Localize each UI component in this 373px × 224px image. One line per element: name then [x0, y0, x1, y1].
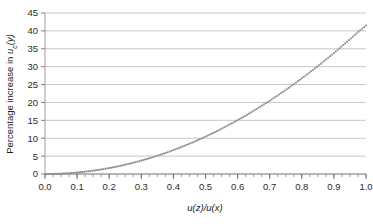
- data-point: [82, 171, 84, 173]
- data-point: [291, 84, 293, 86]
- data-point: [227, 124, 229, 126]
- chart-background: [0, 0, 373, 224]
- data-point: [225, 125, 227, 127]
- data-point: [327, 57, 329, 59]
- data-point: [184, 145, 186, 147]
- data-point: [193, 141, 195, 143]
- x-tick-label-0.7: 0.7: [263, 181, 276, 192]
- data-point: [303, 76, 305, 78]
- data-point: [105, 168, 107, 170]
- data-point: [307, 73, 309, 75]
- data-point: [191, 142, 193, 144]
- y-tick-label-0: 0: [33, 168, 38, 179]
- data-point: [189, 142, 191, 144]
- data-point: [173, 149, 175, 151]
- data-point: [341, 46, 343, 48]
- data-point: [214, 131, 216, 133]
- data-point: [257, 107, 259, 109]
- data-point: [88, 170, 90, 172]
- x-axis-title: u(z)/u(x): [187, 202, 222, 213]
- data-point: [55, 173, 57, 175]
- data-point: [69, 172, 71, 174]
- data-point: [206, 135, 208, 137]
- data-point: [157, 154, 159, 156]
- data-point: [278, 94, 280, 96]
- y-tick-label-20: 20: [27, 97, 38, 108]
- data-point: [286, 88, 288, 90]
- data-point: [150, 157, 152, 159]
- data-point: [84, 171, 86, 173]
- data-point: [148, 157, 150, 159]
- x-tick-label-0.5: 0.5: [199, 181, 212, 192]
- data-point: [52, 173, 54, 175]
- data-point: [359, 29, 361, 31]
- data-point: [154, 156, 156, 158]
- data-point: [335, 51, 337, 53]
- data-point: [152, 156, 154, 158]
- data-point: [59, 173, 61, 175]
- data-point: [240, 117, 242, 119]
- data-point: [259, 106, 261, 108]
- data-point: [135, 161, 137, 163]
- data-point: [252, 110, 254, 112]
- data-point: [363, 26, 365, 28]
- x-tick-label-0.0: 0.0: [38, 181, 51, 192]
- x-tick-label-0.6: 0.6: [231, 181, 244, 192]
- x-tick-label-1.0: 1.0: [359, 181, 372, 192]
- data-point: [180, 146, 182, 148]
- data-point: [299, 79, 301, 81]
- data-point: [365, 25, 367, 27]
- data-point: [171, 150, 173, 152]
- data-point: [144, 159, 146, 161]
- data-point: [242, 116, 244, 118]
- data-point: [197, 139, 199, 141]
- x-axis-title-group: u(z)/u(x): [187, 202, 222, 213]
- data-point: [348, 39, 350, 41]
- data-point: [346, 41, 348, 43]
- data-point: [44, 173, 46, 175]
- data-point: [71, 172, 73, 174]
- data-point: [222, 127, 224, 129]
- data-point: [203, 137, 205, 139]
- data-point: [74, 172, 76, 174]
- data-point: [116, 166, 118, 168]
- y-tick-label-25: 25: [27, 79, 38, 90]
- data-point: [295, 82, 297, 84]
- data-point: [61, 173, 63, 175]
- data-point: [239, 118, 241, 120]
- x-tick-label-0.2: 0.2: [103, 181, 116, 192]
- data-point: [63, 173, 65, 175]
- data-point: [297, 80, 299, 82]
- chart-figure: 051015202530354045 0.00.10.20.30.40.50.6…: [0, 0, 373, 224]
- data-point: [110, 167, 112, 169]
- data-point: [231, 122, 233, 124]
- data-point: [284, 90, 286, 92]
- data-point: [91, 170, 93, 172]
- data-point: [337, 49, 339, 51]
- data-point: [325, 58, 327, 60]
- data-point: [97, 169, 99, 171]
- data-point: [361, 28, 363, 30]
- data-point: [314, 67, 316, 69]
- data-point: [229, 123, 231, 125]
- data-point: [333, 52, 335, 54]
- data-point: [137, 161, 139, 163]
- data-point: [316, 66, 318, 68]
- data-point: [290, 86, 292, 88]
- y-tick-label-40: 40: [27, 25, 38, 36]
- data-point: [350, 37, 352, 39]
- data-point: [108, 167, 110, 169]
- data-point: [356, 32, 358, 34]
- data-point: [342, 44, 344, 46]
- data-point: [248, 113, 250, 115]
- data-point: [344, 42, 346, 44]
- data-point: [318, 64, 320, 66]
- data-point: [159, 154, 161, 156]
- data-point: [195, 140, 197, 142]
- data-point: [57, 173, 59, 175]
- data-point: [301, 77, 303, 79]
- data-point: [169, 151, 171, 153]
- data-point: [50, 173, 52, 175]
- data-point: [178, 147, 180, 149]
- data-point: [72, 172, 74, 174]
